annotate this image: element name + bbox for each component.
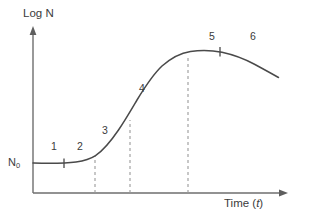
chart-canvas xyxy=(0,0,309,222)
growth-curve-path xyxy=(33,50,279,163)
origin-subscript: 0 xyxy=(16,161,20,170)
phase-label-2: 2 xyxy=(77,141,83,152)
y-axis-title: Log N xyxy=(23,8,54,20)
phase-label-3: 3 xyxy=(102,125,108,136)
phase-label-1: 1 xyxy=(51,141,57,152)
x-axis-title-text: Time ( xyxy=(224,197,256,209)
origin-value-label: N0 xyxy=(8,157,20,168)
x-axis-arrowhead xyxy=(279,190,288,197)
phase-label-4: 4 xyxy=(139,83,145,94)
phase-label-6: 6 xyxy=(250,31,256,42)
x-axis-title-close: ) xyxy=(259,197,263,209)
phase-label-5: 5 xyxy=(209,31,215,42)
y-axis-arrowhead xyxy=(30,26,37,35)
origin-letter: N xyxy=(8,156,16,168)
bacterial-growth-curve-figure: Log N N0 Time (t) 1 2 3 4 5 6 xyxy=(0,0,309,222)
x-axis-title: Time (t) xyxy=(224,198,263,210)
